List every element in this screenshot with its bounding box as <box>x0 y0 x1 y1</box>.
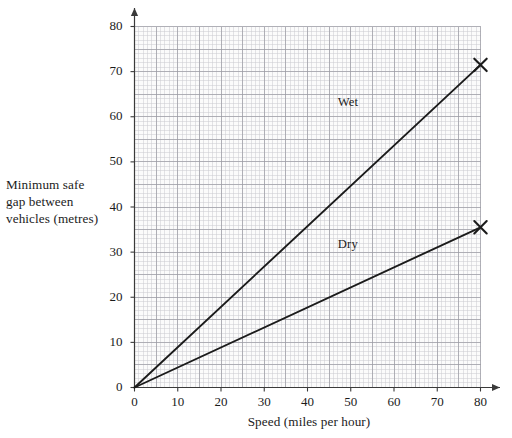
y-tick-label: 30 <box>95 244 123 260</box>
y-tick-label: 70 <box>95 63 123 79</box>
x-tick-label: 20 <box>208 394 234 410</box>
y-tick-label: 10 <box>95 334 123 350</box>
x-tick-label: 0 <box>122 394 148 410</box>
y-axis-arrow-icon <box>131 8 138 16</box>
y-tick-label: 0 <box>95 379 123 395</box>
x-tick-label: 50 <box>338 394 364 410</box>
y-tick-label: 20 <box>95 289 123 305</box>
x-axis-label: Speed (miles per hour) <box>134 414 484 430</box>
x-axis-arrow-icon <box>492 384 500 391</box>
x-tick-label: 40 <box>295 394 321 410</box>
x-tick-label: 70 <box>424 394 450 410</box>
y-tick-label: 40 <box>95 199 123 215</box>
chart-figure: Minimum safe gap between vehicles (metre… <box>0 0 512 438</box>
x-tick-label: 80 <box>468 394 494 410</box>
y-tick-label: 60 <box>95 108 123 124</box>
x-tick-label: 10 <box>165 394 191 410</box>
series-label-dry: Dry <box>338 237 358 252</box>
y-tick-label: 50 <box>95 153 123 169</box>
x-tick-label: 60 <box>381 394 407 410</box>
y-tick-label: 80 <box>95 18 123 34</box>
y-axis-label-line-1: Minimum safe <box>6 176 124 193</box>
series-label-wet: Wet <box>338 95 359 110</box>
x-tick-label: 30 <box>251 394 277 410</box>
